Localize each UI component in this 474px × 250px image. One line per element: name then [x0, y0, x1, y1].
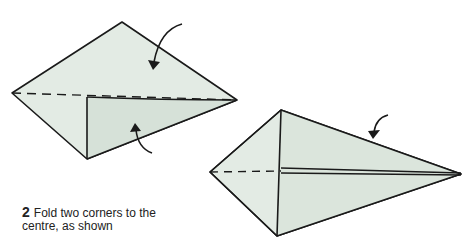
- caption-line-1: 2Fold two corners to the: [22, 206, 156, 220]
- step-text-1: Fold two corners to the: [34, 206, 156, 220]
- step-text-2: centre, as shown: [22, 220, 156, 233]
- arrowhead-icon: [368, 130, 380, 139]
- step-number: 2: [22, 204, 30, 220]
- step-caption: 2Fold two corners to the centre, as show…: [22, 206, 156, 233]
- figure-after: [210, 110, 461, 236]
- figure-before: [12, 22, 237, 159]
- fold-arrow-icon: [374, 115, 388, 132]
